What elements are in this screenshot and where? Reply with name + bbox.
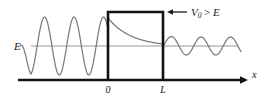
- figure-canvas: E x 0 L V0>E: [0, 0, 270, 100]
- tick-label-group: 0 L: [106, 84, 167, 95]
- left-arrow-icon: [167, 9, 173, 15]
- tick-label-zero: 0: [106, 84, 111, 95]
- x-axis-arrowhead: [240, 76, 248, 84]
- potential-subscript: 0: [198, 11, 202, 20]
- energy-level-group: E: [13, 40, 238, 52]
- barrier-annotation-text: V0>E: [191, 6, 220, 20]
- tick-label-L: L: [159, 84, 166, 95]
- energy-symbol: E: [212, 6, 220, 18]
- x-axis-group: x: [18, 69, 257, 84]
- x-axis-label: x: [251, 69, 257, 80]
- relation-symbol: >: [204, 6, 210, 18]
- barrier-annotation-group: V0>E: [167, 6, 220, 20]
- barrier-decay-curve: [108, 18, 163, 44]
- tunneling-figure: E x 0 L V0>E: [0, 0, 270, 100]
